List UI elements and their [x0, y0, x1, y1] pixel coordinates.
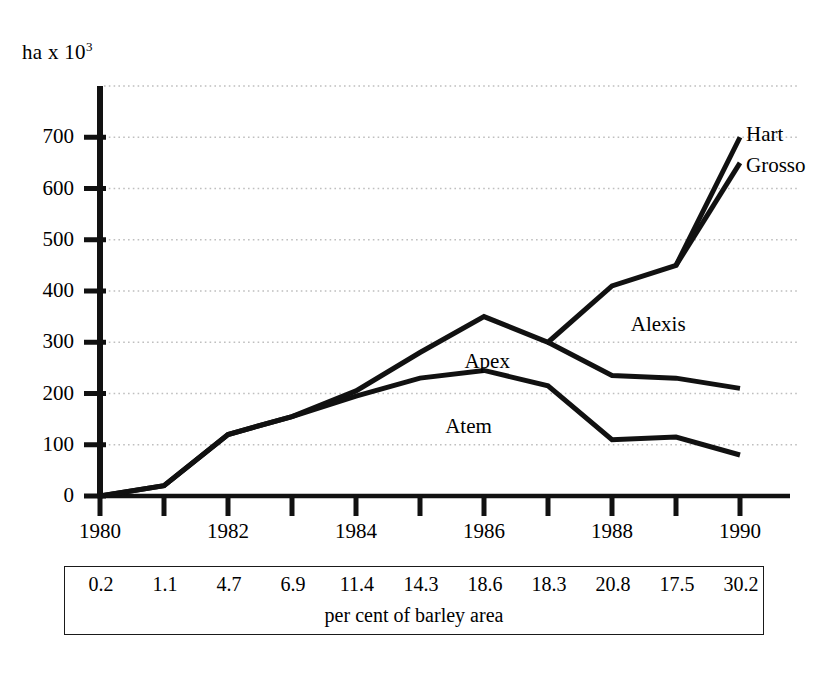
x-tick-label: 1982 [188, 521, 268, 542]
y-tick-label: 500 [14, 229, 74, 250]
chart-container: ha x 103 0100200300400500600700 19801982… [0, 0, 840, 695]
percent-cell: 18.3 [514, 574, 584, 594]
percent-values-row: 0.21.14.76.911.414.318.618.320.817.530.2 [65, 574, 763, 600]
series-label-alexis: Alexis [631, 314, 686, 335]
series-label-apex: Apex [464, 351, 510, 372]
percent-cell: 11.4 [322, 574, 392, 594]
x-tick-label: 1980 [60, 521, 140, 542]
series-line-alexis [548, 342, 740, 388]
y-tick-label: 100 [14, 434, 74, 455]
percent-cell: 17.5 [642, 574, 712, 594]
x-tick-label: 1984 [316, 521, 396, 542]
x-tick-label: 1986 [444, 521, 524, 542]
y-tick-label: 600 [14, 178, 74, 199]
series-line-grosso [676, 163, 740, 266]
percent-cell: 18.6 [450, 574, 520, 594]
series-label-atem: Atem [445, 416, 492, 437]
series-line-apex [100, 370, 740, 496]
gridlines-group [104, 86, 800, 445]
percent-cell: 0.2 [66, 574, 136, 594]
y-tick-label: 0 [14, 485, 74, 506]
y-tick-label: 200 [14, 383, 74, 404]
series-label-grosso: Grosso [746, 155, 806, 176]
percent-cell: 4.7 [194, 574, 264, 594]
percent-cell: 1.1 [130, 574, 200, 594]
percent-table-caption: per cent of barley area [65, 605, 763, 625]
percent-of-barley-area-table: 0.21.14.76.911.414.318.618.320.817.530.2… [64, 566, 764, 635]
percent-cell: 6.9 [258, 574, 328, 594]
x-tick-label: 1990 [700, 521, 780, 542]
series-label-hart: Hart [746, 124, 783, 145]
y-tick-label: 700 [14, 126, 74, 147]
y-tick-label: 300 [14, 331, 74, 352]
percent-cell: 30.2 [706, 574, 776, 594]
y-tick-label: 400 [14, 280, 74, 301]
percent-cell: 14.3 [386, 574, 456, 594]
percent-cell: 20.8 [578, 574, 648, 594]
x-tick-label: 1988 [572, 521, 652, 542]
